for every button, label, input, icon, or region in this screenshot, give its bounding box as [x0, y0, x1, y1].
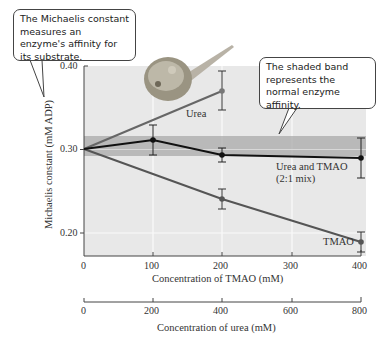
michaelis-callout: The Michaelis constant measures an enzym… — [13, 9, 136, 61]
x2-tick-400: 400 — [213, 305, 228, 316]
x-tick-200: 200 — [213, 260, 228, 271]
x-tick-300: 300 — [283, 260, 298, 271]
x-tick-400: 400 — [352, 260, 367, 271]
x2-tick-800: 800 — [352, 305, 367, 316]
x-tick-0: 0 — [81, 260, 86, 271]
x-tick-100: 100 — [144, 260, 159, 271]
label-mix-line2: (2:1 mix) — [276, 173, 315, 184]
x2-axis-label: Concentration of urea (mM) — [157, 322, 276, 333]
x2-tick-600: 600 — [283, 305, 298, 316]
label-tmao: TMAO — [323, 236, 354, 247]
label-mix-line1: Urea and TMAO — [276, 161, 348, 172]
label-urea: Urea — [186, 108, 206, 119]
y-axis-label: Michaelis constant (mM ADP) — [43, 95, 54, 235]
y-tick-020: 0.20 — [60, 227, 78, 238]
x2-tick-0: 0 — [81, 305, 86, 316]
y-tick-040: 0.40 — [60, 60, 78, 71]
x2-tick-200: 200 — [144, 305, 159, 316]
band-callout: The shaded band represents the normal en… — [259, 57, 376, 109]
y-tick-030: 0.30 — [60, 143, 78, 154]
x-axis-label: Concentration of TMAO (mM) — [152, 273, 283, 284]
normal-affinity-band — [84, 136, 366, 156]
